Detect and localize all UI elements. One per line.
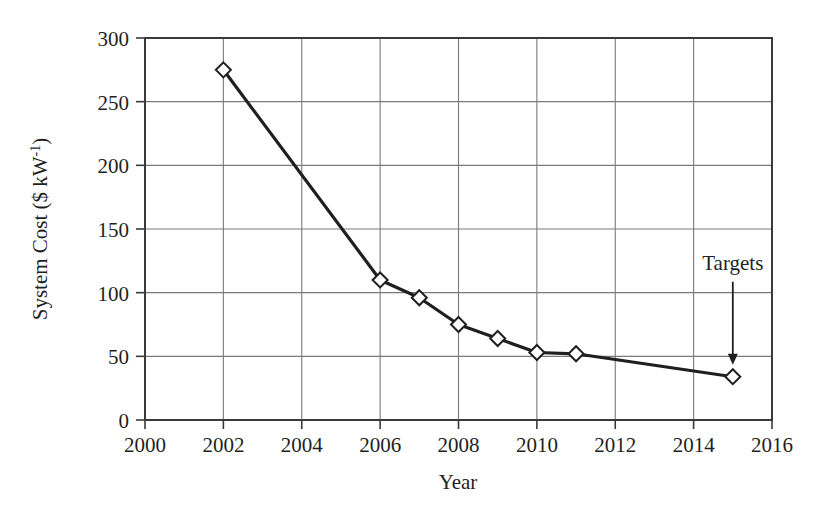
x-tick-label: 2000 <box>124 433 166 457</box>
y-tick-label: 200 <box>98 154 130 178</box>
y-tick-label: 0 <box>119 409 130 433</box>
y-axis-title-group: System Cost ($ kW-1) <box>28 138 52 321</box>
x-tick-label: 2008 <box>438 433 480 457</box>
y-tick-label: 50 <box>108 345 129 369</box>
y-tick-label: 100 <box>98 282 130 306</box>
x-tick-label: 2012 <box>594 433 636 457</box>
y-axis-title: System Cost ($ kW-1) <box>28 138 52 321</box>
x-tick-label: 2016 <box>751 433 793 457</box>
x-tick-label: 2006 <box>359 433 401 457</box>
system-cost-line-chart: 200020022004200620082010201220142016 050… <box>0 0 834 510</box>
y-tick-label: 300 <box>98 27 130 51</box>
annotation-label-targets: Targets <box>702 251 763 275</box>
y-tick-label: 150 <box>98 218 130 242</box>
x-tick-label: 2004 <box>281 433 324 457</box>
x-axis-tick-labels: 200020022004200620082010201220142016 <box>124 433 793 457</box>
y-tick-label: 250 <box>98 91 130 115</box>
chart-figure: 200020022004200620082010201220142016 050… <box>0 0 834 510</box>
x-tick-label: 2002 <box>202 433 244 457</box>
x-tick-label: 2014 <box>673 433 716 457</box>
x-axis-title: Year <box>439 470 478 494</box>
x-tick-label: 2010 <box>516 433 558 457</box>
